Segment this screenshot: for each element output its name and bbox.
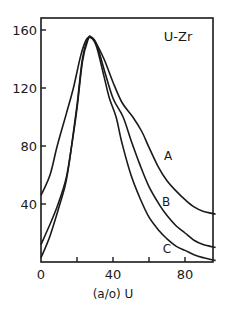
- chart: 4080120160 04080 U-Zr (a/o) U A B C: [0, 0, 228, 312]
- curve-label-b: B: [162, 195, 170, 209]
- curve-label-c: C: [163, 242, 171, 256]
- y-tick-label: 160: [12, 23, 37, 38]
- x-tick-label: 80: [177, 267, 194, 282]
- x-tick-label: 0: [37, 267, 45, 282]
- curve-b: [41, 37, 216, 248]
- y-tick-label: 40: [20, 197, 37, 212]
- y-tick-label: 120: [12, 81, 37, 96]
- x-tick-label: 40: [105, 267, 122, 282]
- curve-label-a: A: [164, 149, 173, 163]
- curve-c: [41, 36, 216, 261]
- y-tick-label: 80: [20, 139, 37, 154]
- plot-frame: [41, 18, 213, 262]
- chart-title: U-Zr: [164, 29, 193, 44]
- curve-a: [41, 37, 216, 214]
- x-axis-ticks: 04080: [37, 257, 193, 282]
- x-axis-title: (a/o) U: [93, 287, 134, 301]
- curves: [41, 36, 216, 261]
